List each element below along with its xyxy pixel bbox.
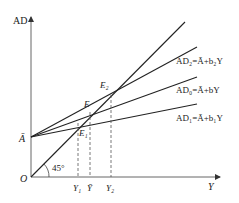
point-e1-label: E₁ — [78, 128, 88, 138]
y-axis-label: AD — [13, 15, 27, 26]
point-e2-label: E₂ — [99, 80, 109, 90]
income-expenditure-diagram: AD Y O Ā 45° AD₂=Ā+b₂Y AD₀=Ā+bY AD₁=A… — [0, 0, 239, 203]
ad1-line — [31, 104, 197, 137]
ad2-line — [31, 47, 197, 137]
intercept-label: Ā — [18, 133, 26, 144]
angle-label: 45° — [52, 163, 65, 173]
ad1-label: AD₁=Ā+b₁Y — [176, 113, 223, 123]
tick-y2-label: Y₂ — [106, 183, 114, 193]
origin-label: O — [20, 173, 27, 184]
x-axis-label: Y — [208, 181, 215, 192]
ad2-label: AD₂=Ā+b₂Y — [176, 56, 223, 66]
45-degree-line — [31, 22, 185, 177]
ad0-label: AD₀=Ā+bY — [176, 85, 220, 95]
tick-ybar-label: Ȳ — [87, 183, 93, 193]
ad0-line — [31, 77, 197, 137]
point-e-label: E — [83, 99, 90, 109]
angle-arc — [44, 164, 49, 177]
tick-y1-label: Y₁ — [73, 183, 81, 193]
